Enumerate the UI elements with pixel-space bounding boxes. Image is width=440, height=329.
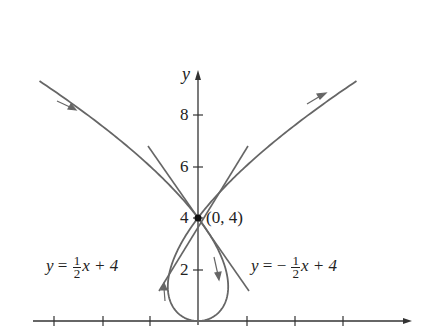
tangent-equation-right: y = − 12x + 4: [251, 255, 337, 280]
equation-equals: = −: [263, 256, 286, 275]
equation-equals: =: [58, 256, 68, 275]
y-axis-label: y: [182, 64, 190, 85]
tangent-equation-left: y = 12x + 4: [46, 255, 118, 280]
arrow-icon-upper-left: [57, 101, 76, 110]
fraction-one-half: 12: [73, 255, 82, 280]
equation-rest: x + 4: [82, 256, 118, 275]
equation-lhs: y: [46, 256, 54, 275]
intersection-point: [195, 215, 202, 222]
point-label: (0, 4): [206, 208, 243, 228]
equation-rest: x + 4: [301, 256, 337, 275]
x-axis-arrow-icon: [403, 318, 412, 324]
y-tick-label-2: 2: [180, 260, 189, 280]
fraction-one-half: 12: [291, 255, 300, 280]
y-tick-label-6: 6: [180, 157, 189, 177]
equation-lhs: y: [251, 256, 259, 275]
y-tick-label-4: 4: [180, 208, 189, 228]
y-tick-label-8: 8: [180, 105, 189, 125]
parametric-curve-figure: y 8 6 4 2 (0, 4) y = 12x + 4 y = − 12x +…: [0, 0, 440, 329]
y-axis-arrow-icon: [195, 70, 201, 80]
arrow-icon-upper-right: [307, 93, 326, 104]
arrow-icon-loop-right: [214, 257, 221, 280]
